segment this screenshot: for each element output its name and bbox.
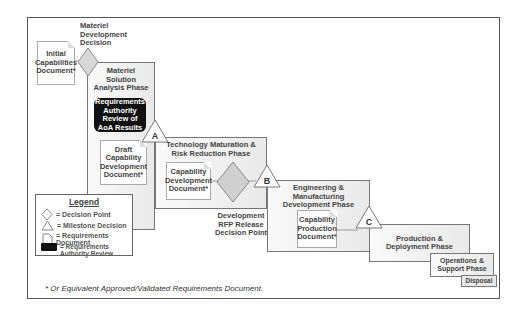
- milestone-b-triangle-icon: B: [254, 165, 280, 187]
- rfp-decision-diamond-icon: [217, 162, 249, 202]
- legend-review: = Requirements Authority Review: [41, 243, 131, 257]
- legend-box: Legend = Decision Point = Milestone Deci…: [35, 194, 133, 256]
- diamond-icon: [42, 209, 52, 220]
- legend-milestone: = Milestone Decision: [42, 221, 126, 230]
- legend-decision-point: = Decision Point: [42, 209, 111, 220]
- footnote: * Or Equivalent Approved/Validated Requi…: [45, 284, 263, 293]
- milestone-a-triangle-icon: A: [142, 120, 168, 142]
- mdd-decision-diamond-icon: [78, 48, 98, 76]
- svg-text:C: C: [366, 217, 373, 227]
- connector-lines: [0, 0, 523, 312]
- milestone-c-triangle-icon: C: [356, 206, 382, 228]
- triangle-icon: [42, 221, 53, 230]
- review-swatch-icon: [41, 243, 57, 251]
- svg-text:A: A: [152, 131, 159, 141]
- legend-title: Legend: [36, 197, 132, 207]
- svg-text:B: B: [264, 176, 271, 186]
